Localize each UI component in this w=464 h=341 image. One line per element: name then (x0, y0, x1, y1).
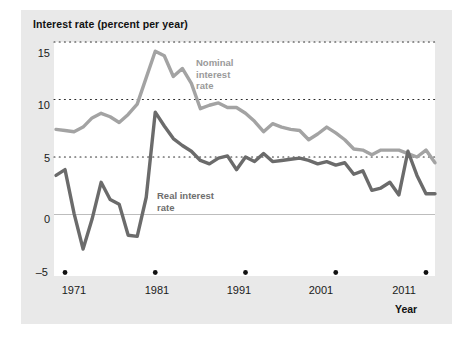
x-tick-dots (63, 270, 429, 275)
series-line-nominal (56, 51, 435, 163)
gridlines (54, 42, 435, 157)
chart-figure: Interest rate (percent per year) 15 10 5… (0, 0, 464, 341)
series-line-real (56, 112, 435, 249)
plot-svg (0, 0, 464, 341)
